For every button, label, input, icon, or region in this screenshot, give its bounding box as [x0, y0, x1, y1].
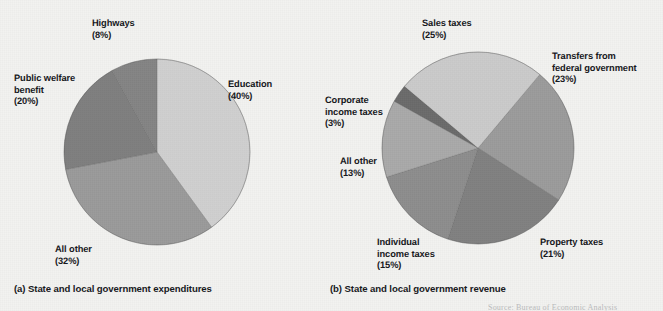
figure-canvas: Highways (8%) Public welfare benefit (20… [0, 0, 663, 311]
label-all-other-expenditures-text: All other [55, 244, 92, 254]
label-transfers-text: Transfers from federal government [552, 51, 636, 72]
label-corporate-income-taxes: Corporate income taxes (3%) [325, 84, 383, 141]
label-all-other-revenue: All other (13%) [340, 145, 377, 191]
label-individual-income-taxes-text: Individual income taxes [377, 237, 435, 258]
label-transfers-from-federal-government: Transfers from federal government (23%) [552, 40, 636, 97]
label-corporate-income-taxes-pct: (3%) [325, 118, 383, 129]
pie-chart-revenue [380, 50, 576, 246]
label-highways: Highways (8%) [92, 7, 135, 53]
label-highways-pct: (8%) [92, 30, 135, 41]
label-individual-income-taxes-pct: (15%) [377, 260, 435, 271]
label-transfers-pct: (23%) [552, 74, 636, 85]
label-all-other-revenue-pct: (13%) [340, 168, 377, 179]
label-individual-income-taxes: Individual income taxes (15%) [377, 226, 435, 283]
label-education-pct: (40%) [228, 91, 272, 102]
label-property-taxes-text: Property taxes [540, 237, 603, 247]
label-all-other-revenue-text: All other [340, 156, 377, 166]
label-sales-taxes-text: Sales taxes [422, 18, 472, 28]
label-public-welfare-benefit-text: Public welfare benefit [14, 73, 75, 94]
label-all-other-expenditures-pct: (32%) [55, 256, 92, 267]
source-note: Source: Bureau of Economic Analysis [488, 303, 617, 311]
label-sales-taxes-pct: (25%) [422, 30, 472, 41]
caption-chart-b: (b) State and local government revenue [330, 283, 506, 294]
label-property-taxes-pct: (21%) [540, 249, 603, 260]
label-corporate-income-taxes-text: Corporate income taxes [325, 95, 383, 116]
label-education: Education (40%) [228, 68, 272, 114]
label-all-other-expenditures: All other (32%) [55, 233, 92, 279]
label-public-welfare-benefit-pct: (20%) [14, 96, 75, 107]
label-property-taxes: Property taxes (21%) [540, 226, 603, 272]
pie-chart-expenditures [62, 57, 252, 247]
label-education-text: Education [228, 79, 272, 89]
label-public-welfare-benefit: Public welfare benefit (20%) [14, 62, 75, 119]
caption-chart-a: (a) State and local government expenditu… [14, 283, 212, 294]
label-sales-taxes: Sales taxes (25%) [422, 7, 472, 53]
label-highways-text: Highways [92, 18, 135, 28]
